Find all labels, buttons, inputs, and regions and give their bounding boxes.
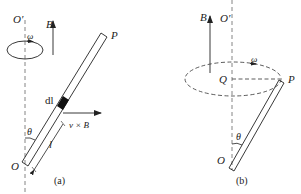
label-theta-a: θ [27,126,32,137]
panel-a: O′ B ω P dl v × B l θ O (a) [7,13,118,194]
dl-element [57,96,69,110]
rotation-arrow-icon [27,41,33,42]
label-o-prime-a: O′ [13,13,24,25]
label-omega-b: ω [251,54,257,64]
label-vxb: v × B [69,120,90,130]
label-p-a: P [110,29,118,41]
caption-a: (a) [54,175,65,187]
panel-b: B O′ ω Q P θ O (b) [185,0,295,187]
label-b-b: B [200,11,207,23]
label-dl: dl [45,94,54,106]
label-q: Q [219,73,227,85]
label-omega-a: ω [27,31,33,41]
label-theta-b: θ [236,131,241,142]
caption-b: (b) [236,175,248,187]
label-l: l [49,138,52,150]
theta-arc-b [232,143,242,145]
label-p-b: P [287,73,295,85]
rod-b [229,80,284,171]
label-b-a: B [46,18,53,30]
figure-canvas: O′ B ω P dl v × B l θ O (a) B O′ [0,0,301,194]
theta-arc-a [25,138,35,140]
label-o-a: O [11,160,19,172]
label-o-b: O [217,154,225,166]
label-o-prime-b: O′ [220,12,231,24]
